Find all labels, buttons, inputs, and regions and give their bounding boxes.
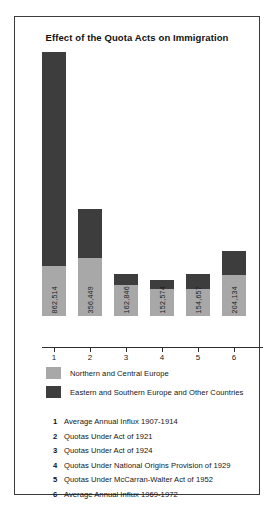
x-tick-5 <box>198 348 199 352</box>
chart-legend: Northern and Central Europe Eastern and … <box>46 367 246 405</box>
bar-1-value-wrap: 862,514 <box>42 253 66 313</box>
x-tick-label-3: 3 <box>114 353 138 362</box>
bar-1-segment-dark <box>42 52 66 266</box>
bar-2-value-label: 356,449 <box>87 286 94 313</box>
key-label-6: Average Annual Influx 1969-1972 <box>64 490 178 499</box>
legend-entry-northern-central-europe: Northern and Central Europe <box>46 367 246 379</box>
legend-label-northern-central-europe: Northern and Central Europe <box>70 369 169 378</box>
x-tick-label-4: 4 <box>150 353 174 362</box>
x-tick-label-5: 5 <box>186 353 210 362</box>
key-item-1: 1 Average Annual Influx 1907-1914 <box>53 417 253 426</box>
key-number-6: 6 <box>53 490 64 499</box>
bar-4-value-wrap: 152,574 <box>150 253 174 313</box>
key-label-4: Quotas Under National Origins Provision … <box>64 461 231 470</box>
bar-6-value-label: 204,134 <box>231 286 238 313</box>
bar-3-value-wrap: 162,846 <box>114 253 138 313</box>
key-item-3: 3 Quotas Under Act of 1924 <box>53 446 253 455</box>
x-tick-label-2: 2 <box>78 353 102 362</box>
legend-swatch-light <box>46 367 61 379</box>
legend-label-eastern-southern-europe: Eastern and Southern Europe and Other Co… <box>70 388 243 397</box>
x-tick-label-1: 1 <box>42 353 66 362</box>
x-axis-line <box>42 347 263 348</box>
x-tick-4 <box>162 348 163 352</box>
key-number-1: 1 <box>53 417 64 426</box>
x-tick-1 <box>54 348 55 352</box>
bar-5-value-wrap: 154,657 <box>186 253 210 313</box>
chart-key-list: 1 Average Annual Influx 1907-1914 2 Quot… <box>53 417 253 505</box>
key-number-5: 5 <box>53 475 64 484</box>
plot-area: 862,514 356,449 162,846 152,574 <box>30 48 246 316</box>
x-tick-6 <box>234 348 235 352</box>
x-tick-label-6: 6 <box>222 353 246 362</box>
chart-title: Effect of the Quota Acts on Immigration <box>15 32 259 43</box>
bar-6-value-wrap: 204,134 <box>222 253 246 313</box>
bar-1-value-label: 862,514 <box>51 286 58 313</box>
bar-3-value-label: 162,846 <box>123 286 130 313</box>
key-label-5: Quotas Under McCarran-Walter Act of 1952 <box>64 475 213 484</box>
key-label-3: Quotas Under Act of 1924 <box>64 446 153 455</box>
x-tick-2 <box>90 348 91 352</box>
key-item-2: 2 Quotas Under Act of 1921 <box>53 432 253 441</box>
key-number-2: 2 <box>53 432 64 441</box>
chart-figure: Effect of the Quota Acts on Immigration … <box>14 16 260 495</box>
bar-4-value-label: 152,574 <box>159 286 166 313</box>
key-number-4: 4 <box>53 461 64 470</box>
key-item-5: 5 Quotas Under McCarran-Walter Act of 19… <box>53 475 253 484</box>
key-number-3: 3 <box>53 446 64 455</box>
bar-5-value-label: 154,657 <box>195 286 202 313</box>
x-tick-3 <box>126 348 127 352</box>
key-label-2: Quotas Under Act of 1921 <box>64 432 153 441</box>
legend-entry-eastern-southern-europe: Eastern and Southern Europe and Other Co… <box>46 386 246 398</box>
bar-2-value-wrap: 356,449 <box>78 253 102 313</box>
key-item-4: 4 Quotas Under National Origins Provisio… <box>53 461 253 470</box>
key-label-1: Average Annual Influx 1907-1914 <box>64 417 178 426</box>
bar-2-segment-dark <box>78 209 102 258</box>
key-item-6: 6 Average Annual Influx 1969-1972 <box>53 490 253 499</box>
legend-swatch-dark <box>46 386 61 398</box>
